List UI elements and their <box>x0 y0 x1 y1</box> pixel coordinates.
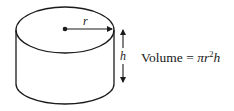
formula-lhs: Volume <box>141 50 183 65</box>
formula-h: h <box>213 50 220 65</box>
volume-formula: Volume = πr2h <box>141 49 220 65</box>
formula-equals: = <box>183 50 197 65</box>
height-label: h <box>120 49 126 63</box>
radius-label: r <box>83 14 88 28</box>
cylinder-bottom-arc <box>16 84 114 104</box>
cylinder-diagram: r h Volume = πr2h <box>0 0 234 111</box>
